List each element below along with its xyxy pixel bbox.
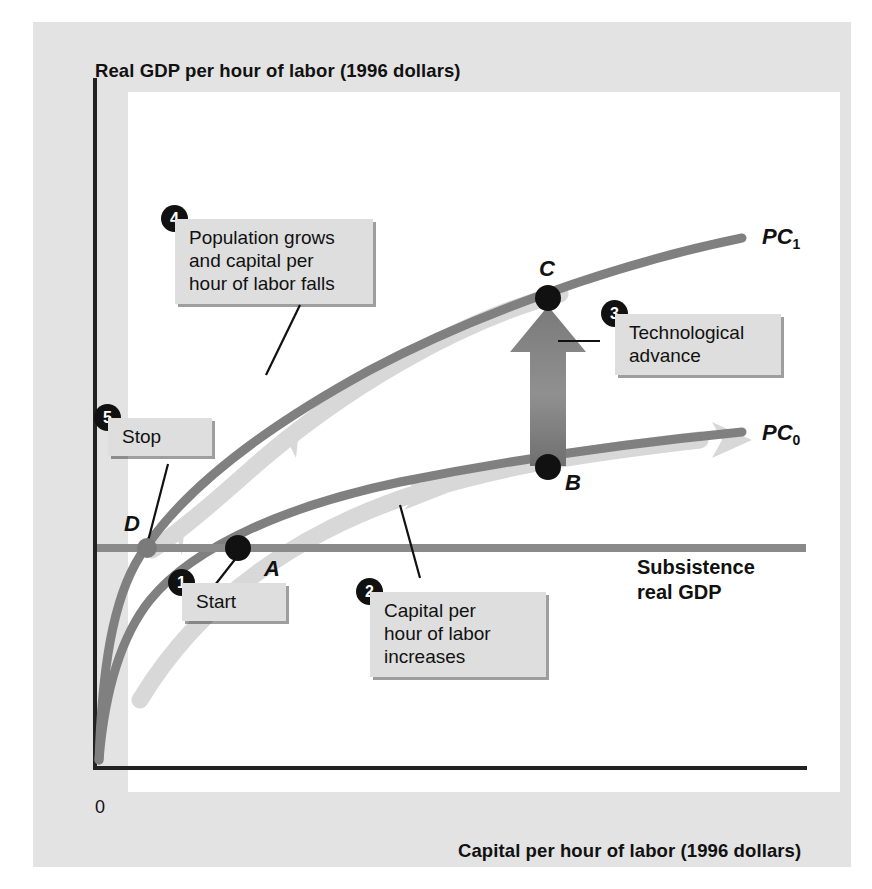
- curve-label-pc1-text: PC: [762, 224, 793, 249]
- point-label-b: B: [565, 470, 581, 496]
- subsistence-real-gdp-label: Subsistence real GDP: [637, 555, 755, 605]
- point-label-d: D: [124, 511, 140, 537]
- callout-1-text: Start: [182, 583, 286, 621]
- curve-label-pc0-sub: 0: [793, 432, 801, 448]
- plot-canvas: [128, 92, 840, 792]
- curve-label-pc0: PC0: [762, 420, 800, 448]
- point-label-c: C: [539, 256, 555, 282]
- y-axis-title: Real GDP per hour of labor (1996 dollars…: [95, 60, 461, 82]
- curve-label-pc1-sub: 1: [793, 236, 801, 252]
- curve-label-pc1: PC1: [762, 224, 800, 252]
- curve-label-pc0-text: PC: [762, 420, 793, 445]
- point-label-a: A: [264, 556, 280, 582]
- figure-page: Real GDP per hour of labor (1996 dollars…: [0, 0, 872, 889]
- origin-label: 0: [95, 797, 105, 818]
- callout-4-text: Population grows and capital per hour of…: [175, 219, 373, 304]
- callout-5-text: Stop: [108, 418, 212, 456]
- x-axis-title: Capital per hour of labor (1996 dollars): [458, 840, 801, 862]
- callout-2-text: Capital per hour of labor increases: [370, 592, 546, 677]
- callout-3-text: Technological advance: [615, 314, 781, 375]
